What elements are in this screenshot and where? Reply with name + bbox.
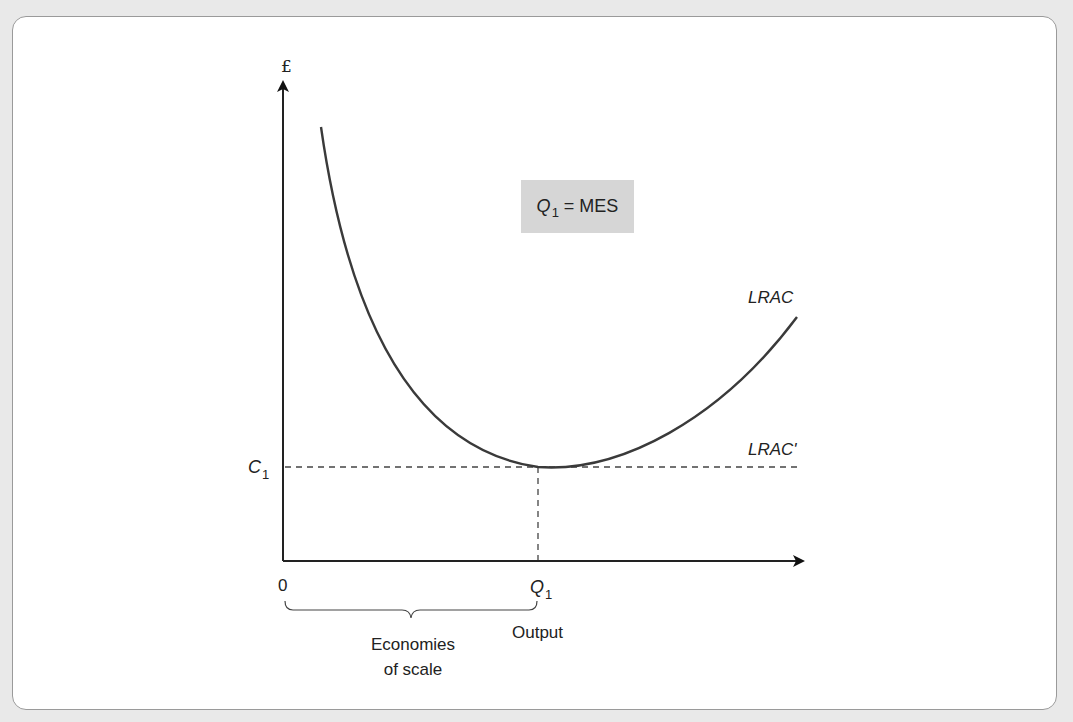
c1-main: C xyxy=(248,457,261,477)
mes-q: Q xyxy=(537,196,551,217)
x-axis-label: Output xyxy=(512,624,563,641)
mes-annotation-box: Q1 = MES xyxy=(521,180,634,233)
origin-label: 0 xyxy=(278,577,287,594)
c1-subscript: 1 xyxy=(262,467,269,482)
lrac-label: LRAC xyxy=(748,289,793,306)
lrac-curve xyxy=(321,127,797,467)
c1-tick-label: C1 xyxy=(248,458,269,476)
mes-text: = MES xyxy=(559,196,619,217)
y-axis-label: £ xyxy=(281,58,292,75)
economies-of-scale-label: Economies of scale xyxy=(353,632,473,682)
economies-of-scale-brace xyxy=(285,601,537,618)
lrac-prime-label: LRAC' xyxy=(748,441,797,458)
chart-canvas xyxy=(0,0,1073,722)
q1-subscript: 1 xyxy=(545,587,552,602)
economies-line-1: Economies xyxy=(353,632,473,657)
q1-tick-label: Q1 xyxy=(530,578,552,596)
economies-line-2: of scale xyxy=(353,657,473,682)
q1-main: Q xyxy=(530,577,544,597)
mes-subscript: 1 xyxy=(552,205,559,220)
